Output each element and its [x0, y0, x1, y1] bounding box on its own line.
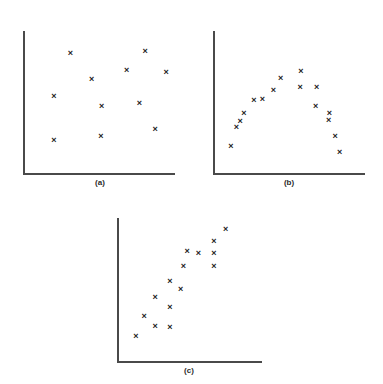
data-point-marker: × [165, 323, 174, 332]
scatterplot-figure: ××××××××××× (a) ×××××××××××××××× (b) ×××… [0, 0, 383, 384]
data-point-marker: × [162, 68, 171, 77]
data-point-marker: × [297, 67, 306, 76]
data-point-marker: × [335, 148, 344, 157]
data-point-marker: × [135, 99, 144, 108]
panel-c-plot-area: ××××××××××××××× [117, 218, 262, 363]
panel-b-label: (b) [267, 178, 311, 187]
data-point-marker: × [209, 237, 218, 246]
panel-b-x-axis [213, 173, 365, 175]
data-point-marker: × [276, 74, 285, 83]
data-point-marker: × [165, 277, 174, 286]
panel-c-y-axis [117, 218, 119, 363]
data-point-marker: × [312, 83, 321, 92]
panel-b-plot-area: ×××××××××××××××× [213, 31, 365, 175]
panel-b-y-axis [213, 31, 215, 175]
panel-a-plot-area: ××××××××××× [23, 31, 175, 175]
data-point-marker: × [151, 125, 160, 134]
data-point-marker: × [140, 312, 149, 321]
data-point-marker: × [66, 49, 75, 58]
data-point-marker: × [331, 132, 340, 141]
data-point-marker: × [221, 225, 230, 234]
data-point-marker: × [179, 262, 188, 271]
data-point-marker: × [131, 332, 140, 341]
data-point-marker: × [239, 109, 248, 118]
data-point-marker: × [49, 92, 58, 101]
data-point-marker: × [209, 262, 218, 271]
panel-c-label: (c) [167, 366, 211, 375]
data-point-marker: × [269, 86, 278, 95]
data-point-marker: × [165, 303, 174, 312]
panel-c: ××××××××××××××× [117, 218, 262, 363]
data-point-marker: × [227, 142, 236, 151]
data-point-marker: × [324, 116, 333, 125]
data-point-marker: × [325, 109, 334, 118]
data-point-marker: × [258, 95, 267, 104]
data-point-marker: × [311, 102, 320, 111]
data-point-marker: × [209, 249, 218, 258]
data-point-marker: × [141, 47, 150, 56]
data-point-marker: × [232, 123, 241, 132]
data-point-marker: × [236, 117, 245, 126]
data-point-marker: × [97, 102, 106, 111]
data-point-marker: × [176, 285, 185, 294]
panel-b: ×××××××××××××××× [213, 31, 365, 175]
data-point-marker: × [96, 132, 105, 141]
data-point-marker: × [122, 66, 131, 75]
panel-a: ××××××××××× [23, 31, 175, 175]
data-point-marker: × [151, 322, 160, 331]
data-point-marker: × [151, 293, 160, 302]
data-point-marker: × [250, 96, 259, 105]
panel-c-x-axis [117, 361, 262, 363]
panel-a-y-axis [23, 31, 25, 175]
data-point-marker: × [183, 247, 192, 256]
panel-a-label: (a) [78, 178, 122, 187]
data-point-marker: × [194, 249, 203, 258]
data-point-marker: × [296, 83, 305, 92]
data-point-marker: × [87, 75, 96, 84]
panel-a-x-axis [23, 173, 175, 175]
data-point-marker: × [49, 136, 58, 145]
